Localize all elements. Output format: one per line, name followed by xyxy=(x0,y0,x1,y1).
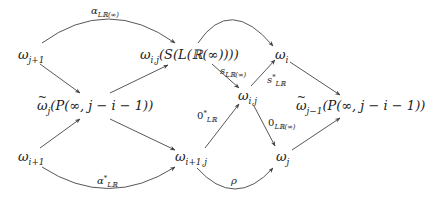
node-omega-ij-S-L-R-inf: ωi,j(S(L(ℝ(∞)))) xyxy=(140,48,239,61)
label-zero-LRinf: 0Lℝ(∞) xyxy=(268,118,296,128)
edge-wi1-to-wtj xyxy=(40,119,80,148)
node-omega-ij: ωi,j xyxy=(238,89,257,102)
commutative-diagram: ωj+1 ωi,j(S(L(ℝ(∞)))) ωi ωj(P(∞, j − i −… xyxy=(0,0,425,200)
label-zero-star-LR: 0*Lℝ xyxy=(197,111,217,121)
label-rho: ρ xyxy=(231,176,237,186)
label-alpha-LRinf: αLℝ(∞) xyxy=(91,6,119,16)
node-omega-j-plus-1: ωj+1 xyxy=(18,48,44,61)
label-s-LRinf: sLℝ(∞) xyxy=(220,66,246,76)
node-omega-tilde-j-minus-1-P: ωj−1(P(∞, j − i − 1)) xyxy=(296,99,425,112)
edge-wijS-to-wi xyxy=(198,20,273,46)
edge-wtj-to-wi1j xyxy=(110,119,175,150)
node-omega-i-plus-1-j: ωi+1,j xyxy=(175,150,207,163)
node-omega-tilde-j-P: ωj(P(∞, j − i − 1)) xyxy=(37,99,153,112)
label-s-star-LR: s*Lℝ xyxy=(267,75,286,85)
edge-wj1-to-wtj xyxy=(40,64,80,93)
label-alpha-star-LR: α*Lℝ xyxy=(97,176,117,186)
edge-wtj-to-wijS xyxy=(110,65,168,93)
node-omega-j: ωj xyxy=(276,150,289,163)
edge-alpha-LRinf xyxy=(42,19,175,43)
node-omega-i-plus-1: ωi+1 xyxy=(18,150,44,163)
node-omega-i: ωi xyxy=(275,48,288,61)
edge-wj-to-wtjm1 xyxy=(292,118,340,150)
